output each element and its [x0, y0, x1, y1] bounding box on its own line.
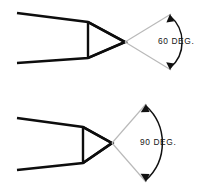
tool-shank-outline-upper — [17, 13, 125, 63]
figure-canvas: 60 DEG. 90 DEG. — [0, 0, 206, 196]
angle-label-sixty: 60 DEG. — [158, 36, 194, 46]
angle-extension-line-lower-bottom — [112, 143, 146, 182]
tool-point-triangle-lower — [83, 127, 112, 163]
angle-label-ninety: 90 DEG. — [140, 137, 176, 147]
tool-point-triangle-upper — [88, 22, 125, 58]
tool-angle-diagram: 60 DEG. 90 DEG. — [0, 0, 206, 196]
tool-shank-outline-lower — [17, 118, 112, 170]
sixty-degree-tool-group: 60 DEG. — [17, 13, 194, 70]
ninety-degree-tool-group: 90 DEG. — [17, 104, 176, 182]
